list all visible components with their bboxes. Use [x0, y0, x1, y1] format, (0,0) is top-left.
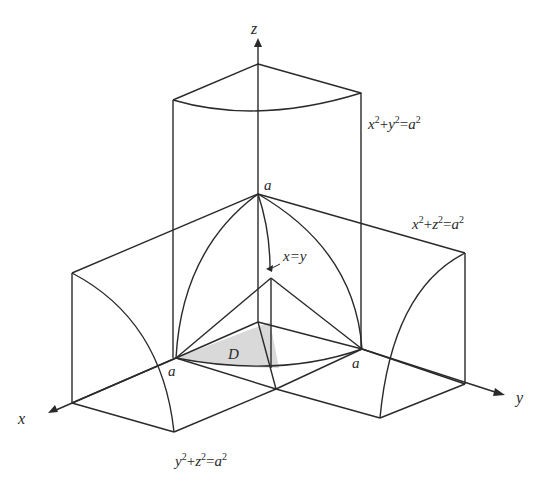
- x-axis-arrow-icon: [48, 405, 58, 413]
- cylinder-yz-equation: y2+z2=a2: [173, 451, 227, 469]
- left-box-arc: [72, 273, 174, 432]
- left-a-label: a: [168, 363, 176, 379]
- y-axis-arrow-icon: [493, 388, 505, 396]
- region-d-label: D: [227, 346, 239, 362]
- left-box-bottom-front: [72, 403, 174, 432]
- right-box-arc: [380, 253, 465, 418]
- x-axis: [56, 358, 176, 410]
- cylinder-diagram: z x y a a a D x=y x2+y2=a2 x2+z2=a2 y2+z…: [0, 0, 539, 485]
- apex-a-label: a: [264, 177, 272, 193]
- y-axis: [362, 349, 495, 392]
- x-axis-label: x: [17, 410, 25, 427]
- right-box-bottom-front: [380, 384, 465, 418]
- left-box-bottom-right: [174, 389, 276, 432]
- cylinder-xy-equation: x2+y2=a2: [367, 114, 421, 132]
- z-axis-label: z: [250, 20, 258, 37]
- y-axis-label: y: [514, 389, 524, 407]
- right-a-label: a: [352, 355, 360, 371]
- right-box-bottom-left: [276, 389, 380, 418]
- edge-right-to-bottom: [276, 349, 362, 389]
- cylinder-xz-equation: x2+z2=a2: [411, 214, 464, 232]
- cylinder-top-cap: [173, 64, 361, 111]
- plane-x-eq-y-label: x=y: [282, 248, 307, 264]
- left-box-top-edge: [72, 194, 258, 273]
- arc-apex-center: [258, 194, 270, 268]
- z-axis-arrow-icon: [254, 38, 262, 47]
- x-eq-y-leader: [272, 264, 280, 268]
